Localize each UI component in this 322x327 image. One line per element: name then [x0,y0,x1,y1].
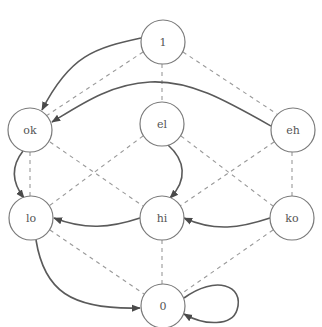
node-label-0: 0 [160,300,167,313]
node-ok[interactable]: ok [8,108,52,152]
lattice-edge-lo-0 [50,230,144,294]
transition-0-self-loop [184,285,238,322]
node-hi[interactable]: hi [140,196,184,240]
lattice-edge-ko-0 [181,230,273,294]
lattice-edge-el-lo [49,136,143,206]
transition-lo-to-0 [36,240,140,308]
transition-el-to-hi [168,145,182,198]
node-label-hi: hi [157,212,168,225]
node-label-el: el [157,118,168,131]
node-0[interactable]: 0 [141,284,185,327]
lattice-edge-el-ko [181,136,273,206]
node-eh[interactable]: eh [271,108,315,152]
lattice-edge-ok-hi [50,142,143,206]
node-label-eh: eh [286,124,300,137]
transition-ok-to-lo [14,151,24,198]
transition-hi-to-lo [54,218,140,226]
node-label-ok: ok [23,124,37,137]
transition-ko-to-hi [184,218,270,227]
lattice-edge-1-ok [46,52,143,116]
node-1[interactable]: 1 [141,20,185,64]
node-lo[interactable]: lo [9,196,53,240]
node-label-lo: lo [26,212,37,225]
node-label-ko: ko [285,212,299,225]
node-ko[interactable]: ko [270,196,314,240]
lattice-diagram: 1 ok el eh lo hi ko 0 [0,0,322,327]
lattice-edge-1-eh [183,52,277,114]
node-label-1: 1 [160,36,167,49]
node-el[interactable]: el [140,102,184,146]
lattice-edges [30,52,292,294]
transition-edges [14,38,271,323]
